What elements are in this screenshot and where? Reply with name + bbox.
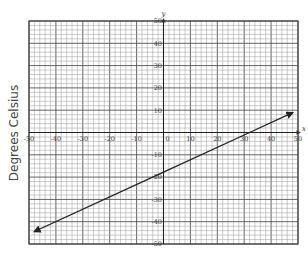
y-tick-label: -10	[152, 151, 162, 159]
x-axis-name: x	[302, 125, 306, 133]
x-tick-label: -40	[51, 135, 61, 143]
x-tick-label: 0	[166, 135, 170, 143]
x-tick-label: 10	[186, 135, 194, 143]
x-tick-label: -50	[24, 135, 34, 143]
x-tick-label: 20	[213, 135, 221, 143]
y-axis-label: Degrees Celsius	[7, 78, 23, 188]
y-tick-label: 20	[154, 84, 162, 92]
x-tick-label: 40	[267, 135, 275, 143]
x-tick-label: 50	[294, 135, 302, 143]
y-tick-label: -50	[152, 240, 162, 248]
chart-canvas: xy-50-40-30-20-10010203040505040302010-1…	[0, 0, 308, 255]
y-tick-label: -40	[152, 218, 162, 226]
x-tick-label: -10	[131, 135, 141, 143]
x-tick-label: -30	[78, 135, 88, 143]
x-tick-label: -20	[104, 135, 114, 143]
y-tick-label: 10	[154, 107, 162, 115]
y-tick-label: -30	[152, 196, 162, 204]
y-tick-label: 40	[154, 40, 162, 48]
y-tick-label: 50	[154, 17, 162, 25]
y-tick-label: 30	[154, 62, 162, 70]
